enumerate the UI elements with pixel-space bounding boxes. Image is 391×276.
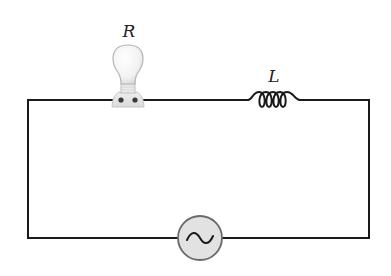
light-bulb-icon bbox=[112, 45, 144, 107]
bulb-contact-left bbox=[118, 97, 123, 102]
ac-source-icon bbox=[178, 216, 222, 260]
rl-circuit-diagram bbox=[0, 0, 391, 276]
inductor-label: L bbox=[268, 68, 279, 85]
inductor-coil-icon bbox=[248, 92, 300, 107]
resistor-label: R bbox=[123, 23, 136, 40]
bulb-contact-right bbox=[132, 97, 137, 102]
